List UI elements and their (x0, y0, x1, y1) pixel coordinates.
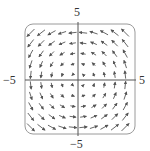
vector-arrow (39, 51, 43, 57)
vector-arrow (70, 106, 75, 107)
vector-arrow (82, 64, 85, 65)
vector-arrow (93, 73, 94, 76)
vector-arrow (40, 93, 43, 99)
vector-arrow (124, 92, 127, 100)
vector-arrow (71, 64, 74, 65)
vector-arrow (50, 62, 53, 67)
vector-arrow (91, 42, 97, 45)
vector-arrow (122, 40, 128, 47)
vector-arrow (29, 60, 32, 68)
vector-arrow (70, 43, 76, 44)
vector-arrow (91, 115, 97, 118)
vector-arrow (82, 84, 84, 86)
vector-arrow (30, 71, 31, 79)
vector-arrow (91, 52, 96, 55)
vector-arrow (112, 40, 118, 46)
vector-arrow (92, 94, 95, 97)
vector-arrow (59, 42, 65, 45)
vector-arrow (101, 115, 107, 119)
vector-arrow (82, 95, 85, 96)
vector-arrow (80, 43, 86, 44)
vector-arrow (114, 72, 115, 78)
y-min-label: −5 (70, 137, 83, 151)
vector-arrow (113, 51, 117, 57)
x-max-label: 5 (139, 73, 145, 87)
vector-arrow (58, 126, 66, 129)
vector-arrow (41, 82, 42, 88)
vector-arrow (38, 124, 45, 130)
vector-arrow (113, 61, 116, 67)
vector-arrow (79, 127, 87, 128)
vector-arrow (111, 124, 118, 130)
vector-arrow (122, 29, 129, 36)
y-max-label: 5 (74, 5, 80, 19)
vector-arrow (122, 124, 129, 131)
vector-arrow (39, 103, 43, 109)
vector-arrow (114, 82, 115, 88)
vector-arrow (50, 104, 54, 108)
vector-arrow (112, 114, 118, 120)
vector-arrow (72, 74, 74, 76)
vector-arrow (91, 105, 96, 108)
vector-arrow (79, 32, 87, 33)
vector-arrow (71, 95, 74, 96)
vector-arrow (72, 84, 74, 86)
vector-arrow (41, 72, 42, 78)
vector-arrow (101, 41, 107, 45)
vector-arrow (70, 53, 75, 54)
vector-arrow (102, 52, 106, 56)
vector-arrow (69, 32, 77, 33)
x-min-label: −5 (3, 73, 16, 87)
vector-arrow (49, 41, 55, 45)
vector-arrow (51, 83, 52, 88)
vector-arrow (111, 30, 118, 36)
vector-arrow (100, 31, 108, 35)
vector-arrow (60, 52, 65, 55)
vector-arrow (92, 63, 95, 66)
vector-arrow (70, 116, 76, 117)
vector-arrow (27, 29, 34, 36)
vector-arrow (81, 53, 86, 54)
vector-arrow (30, 81, 31, 89)
vector-arrow (125, 81, 126, 89)
vector-arrow (40, 61, 43, 67)
vector-arrow (50, 93, 53, 98)
vector-arrow (50, 52, 54, 56)
vector-arrow (60, 105, 65, 108)
vector-arrow (113, 93, 116, 99)
vector-arrow (27, 124, 34, 131)
vector-arrow (82, 74, 84, 76)
vector-arrow (29, 92, 32, 100)
vector-arrow (62, 84, 63, 87)
vector-arrow (48, 125, 56, 129)
vector-arrow (59, 115, 65, 118)
vector-arrow (100, 125, 108, 129)
vector-arrow (28, 40, 34, 47)
vector-arrow (104, 72, 105, 77)
vector-field-diagram: 5 −5 −5 5 (0, 0, 150, 151)
vector-arrow (38, 30, 45, 36)
vector-arrow (28, 113, 34, 120)
vector-arrow (104, 83, 105, 88)
vector-arrow (124, 60, 127, 68)
vector-arrow (90, 126, 98, 129)
vector-arrow (80, 116, 86, 117)
vector-arrow (113, 103, 117, 109)
vector-arrow (61, 63, 64, 66)
vector-arrow (122, 113, 128, 120)
vector-arrow (69, 127, 77, 128)
vector-arrow (48, 31, 56, 35)
vector-arrow (51, 72, 52, 77)
vector-arrow (38, 114, 44, 120)
vector-arrow (29, 102, 33, 110)
vector-arrow (102, 104, 106, 108)
vector-arrow (81, 106, 86, 107)
vector-arrow (29, 50, 33, 58)
vector-arrow (103, 62, 106, 67)
vector-arrow (123, 102, 127, 110)
vector-arrow (58, 31, 66, 34)
vector-arrow (93, 84, 94, 87)
vector-arrow (125, 71, 126, 79)
vector-arrow (123, 50, 127, 58)
vector-arrow (103, 93, 106, 98)
